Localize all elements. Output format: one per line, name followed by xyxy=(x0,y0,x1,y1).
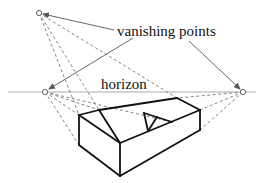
construction-lines-left-vp xyxy=(45,92,172,145)
horizon-label: horizon xyxy=(101,77,147,92)
vanishing-points-label: vanishing points xyxy=(117,24,216,39)
arrow-to-right-vp xyxy=(189,41,240,89)
construction-lines-right-vp xyxy=(177,92,243,130)
perspective-diagram: vanishing points horizon xyxy=(0,0,263,183)
vanishing-point-left xyxy=(42,89,47,94)
wedge-object xyxy=(79,98,200,176)
vanishing-point-top xyxy=(36,10,41,15)
vanishing-point-right xyxy=(240,89,245,94)
